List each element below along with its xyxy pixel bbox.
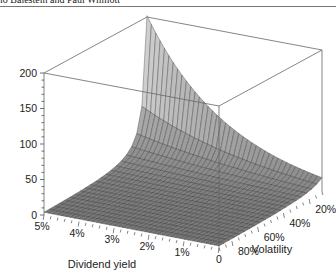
z-tick-label: 150 [19,102,37,114]
volatility-tick-label: 40% [289,217,310,229]
z-tick-label: 0 [31,209,37,221]
surface-chart: 050100150200 5%4%3%2%1%0 80%60%40%20% Di… [0,0,336,280]
dividend-tick-label: 0 [216,253,222,265]
dividend-tick-label: 2% [139,240,154,252]
dividend-tick-label: 4% [69,227,84,239]
z-axis: 050100150200 [19,67,44,221]
z-tick-label: 100 [19,138,37,150]
z-tick-label: 50 [25,173,37,185]
dividend-tick-label: 3% [104,233,119,245]
z-tick-label: 200 [19,67,37,79]
dividend-tick-label: 1% [174,246,189,258]
dividend-tick-label: 5% [34,220,49,232]
volatility-axis-title: Volatility [252,243,293,255]
volatility-tick-label: 60% [264,231,285,243]
volatility-tick-label: 20% [315,203,336,215]
dividend-yield-axis-title: Dividend yield [68,258,136,270]
